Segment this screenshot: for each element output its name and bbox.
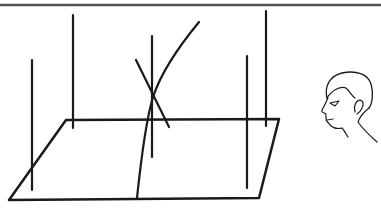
mouth-line bbox=[327, 119, 333, 120]
vertical-poles bbox=[32, 11, 266, 190]
ear-outline bbox=[355, 100, 364, 114]
eye-outline bbox=[330, 101, 339, 106]
ground-plane bbox=[9, 119, 279, 200]
hair-fringe bbox=[327, 87, 355, 98]
face-profile bbox=[322, 98, 348, 137]
observer-head-icon bbox=[322, 72, 377, 142]
neck-outline bbox=[358, 108, 377, 142]
curved-stick bbox=[137, 22, 199, 198]
perspective-scene bbox=[0, 0, 381, 208]
diagram-canvas: Perspective line drawing: a ground plane… bbox=[0, 0, 381, 208]
crossing-sticks bbox=[136, 22, 199, 198]
